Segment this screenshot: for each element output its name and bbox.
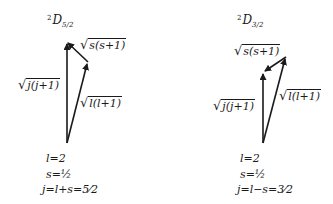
term-symbol-left: 2D5/2 — [47, 14, 73, 29]
eq-j-left: j=l+s=5⁄2 — [42, 184, 98, 195]
j-magnitude-label-right: √j(j+1) — [213, 99, 255, 112]
s-magnitude-label-left: √s(s+1) — [80, 38, 126, 51]
s-expr: s(s+1) — [88, 38, 126, 52]
l-expr: l(l+1) — [287, 89, 321, 103]
j-expr: j(j+1) — [221, 99, 255, 113]
eq-l-right: l=2 — [240, 153, 260, 164]
j-value: 3/2 — [252, 21, 263, 29]
j-value: 5/2 — [62, 21, 73, 29]
eq-j-right: j=l−s=3⁄2 — [237, 184, 293, 195]
s-expr: s(s+1) — [242, 44, 280, 58]
j-magnitude-label-left: √j(j+1) — [18, 78, 60, 91]
eq-s-right: s=½ — [240, 169, 266, 180]
term-symbol-right: 2D3/2 — [237, 14, 263, 29]
eq-l-left: l=2 — [46, 153, 66, 164]
l-magnitude-label-right: √l(l+1) — [279, 89, 321, 102]
multiplicity: 2 — [47, 14, 51, 22]
term-letter: D — [242, 13, 252, 27]
j-expr: j(j+1) — [26, 78, 60, 92]
l-magnitude-label-left: √l(l+1) — [80, 96, 122, 109]
term-letter: D — [52, 13, 62, 27]
l-expr: l(l+1) — [88, 96, 122, 110]
s-magnitude-label-right: √s(s+1) — [234, 44, 280, 57]
multiplicity: 2 — [237, 14, 241, 22]
eq-s-left: s=½ — [46, 169, 72, 180]
